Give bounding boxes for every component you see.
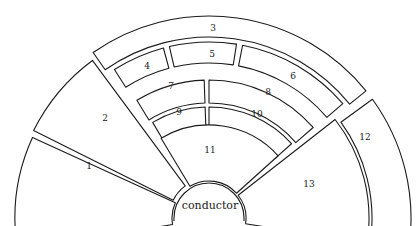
section-label-3: 3 — [210, 23, 216, 33]
section-label-9: 9 — [176, 107, 182, 117]
section-label-2: 2 — [102, 113, 108, 123]
section-label-4: 4 — [144, 61, 150, 71]
section-label-13: 13 — [303, 179, 315, 189]
section-label-8: 8 — [265, 87, 271, 97]
section-label-7: 7 — [168, 81, 174, 91]
section-label-12: 12 — [359, 132, 370, 142]
section-label-5: 5 — [209, 49, 215, 59]
conductor-label: conductor — [182, 199, 239, 212]
section-label-1: 1 — [86, 161, 92, 171]
orchestra-seating-diagram: 1 2 3 4 5 6 7 8 9 10 11 12 13 conductor — [0, 0, 416, 226]
section-label-10: 10 — [251, 109, 263, 119]
section-label-6: 6 — [290, 71, 296, 81]
section-label-11: 11 — [204, 145, 215, 155]
section-5[interactable] — [169, 42, 236, 67]
